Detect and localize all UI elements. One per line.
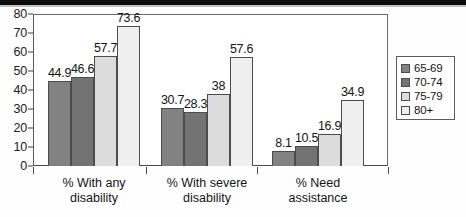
- x-axis-category-label: % Needassistance: [288, 176, 347, 206]
- bar-80+-1: [230, 57, 253, 166]
- bar-70-74-1: [184, 112, 207, 166]
- legend-item-70-74[interactable]: 70-74: [401, 75, 454, 89]
- x-axis-category-line: disability: [167, 191, 248, 206]
- bar-value-label: 46.6: [71, 62, 94, 76]
- bar-value-label: 44.9: [48, 66, 71, 80]
- legend-swatch-icon: [401, 92, 410, 101]
- bar-value-label: 57.7: [94, 41, 117, 55]
- legend-item-80+[interactable]: 80+: [401, 103, 454, 117]
- bar-65-69-2: [272, 151, 295, 166]
- bar-75-79-2: [318, 134, 341, 166]
- x-axis-category-line: assistance: [288, 191, 347, 206]
- bar-75-79-1: [207, 94, 230, 166]
- y-axis-tick-label: 50: [13, 64, 27, 78]
- bar-value-label: 30.7: [161, 93, 184, 107]
- x-axis-group-tick: [257, 167, 258, 174]
- x-axis-group-tick: [146, 167, 147, 174]
- legend-item-65-69[interactable]: 65-69: [401, 61, 454, 75]
- bar-value-label: 38: [212, 79, 225, 93]
- x-axis-category-line: % Need: [288, 176, 347, 191]
- bar-value-label: 73.6: [117, 11, 140, 25]
- bar-65-69-1: [161, 108, 184, 166]
- bar-65-69-0: [48, 81, 71, 166]
- bar-value-label: 57.6: [230, 42, 253, 56]
- y-axis-tick-label: 20: [13, 121, 27, 135]
- x-axis-category-line: disability: [62, 191, 125, 206]
- legend-label: 65-69: [414, 62, 442, 74]
- bar-value-label: 16.9: [318, 119, 341, 133]
- y-axis-tick-label: 30: [13, 102, 27, 116]
- x-axis-group-tick: [388, 167, 389, 174]
- bar-70-74-2: [295, 146, 318, 166]
- plot-area: [33, 14, 388, 166]
- legend-swatch-icon: [401, 106, 410, 115]
- x-axis-category-label: % With anydisability: [62, 176, 125, 206]
- bar-70-74-0: [71, 77, 94, 166]
- legend-label: 75-79: [414, 90, 442, 102]
- y-axis-tick-label: 60: [13, 45, 27, 59]
- bar-value-label: 10.5: [295, 131, 318, 145]
- y-axis-tick-label: 10: [13, 140, 27, 154]
- bar-value-label: 28.3: [184, 97, 207, 111]
- bar-75-79-0: [94, 56, 117, 166]
- chart-figure: 01020304050607080 65-6970-7475-7980+ 44.…: [0, 0, 466, 217]
- bar-80+-0: [117, 26, 140, 166]
- bar-value-label: 8.1: [275, 136, 291, 150]
- bar-value-label: 34.9: [341, 85, 364, 99]
- x-axis-category-line: % With any: [62, 176, 125, 191]
- legend-item-75-79[interactable]: 75-79: [401, 89, 454, 103]
- y-axis-tick-label: 80: [13, 7, 27, 21]
- chart-legend: 65-6970-7475-7980+: [396, 56, 455, 120]
- y-axis-tick-label: 70: [13, 26, 27, 40]
- x-axis-group-tick: [33, 167, 34, 174]
- x-axis-category-line: % With severe: [167, 176, 248, 191]
- y-axis-tick-label: 40: [13, 83, 27, 97]
- legend-label: 70-74: [414, 76, 442, 88]
- bar-80+-2: [341, 100, 364, 166]
- y-axis-tick-label: 0: [20, 159, 27, 173]
- y-axis: 01020304050607080: [0, 14, 33, 166]
- legend-swatch-icon: [401, 64, 410, 73]
- legend-label: 80+: [414, 104, 433, 116]
- scan-artifact-fade: [0, 5, 466, 7]
- x-axis-category-label: % With severedisability: [167, 176, 248, 206]
- legend-swatch-icon: [401, 78, 410, 87]
